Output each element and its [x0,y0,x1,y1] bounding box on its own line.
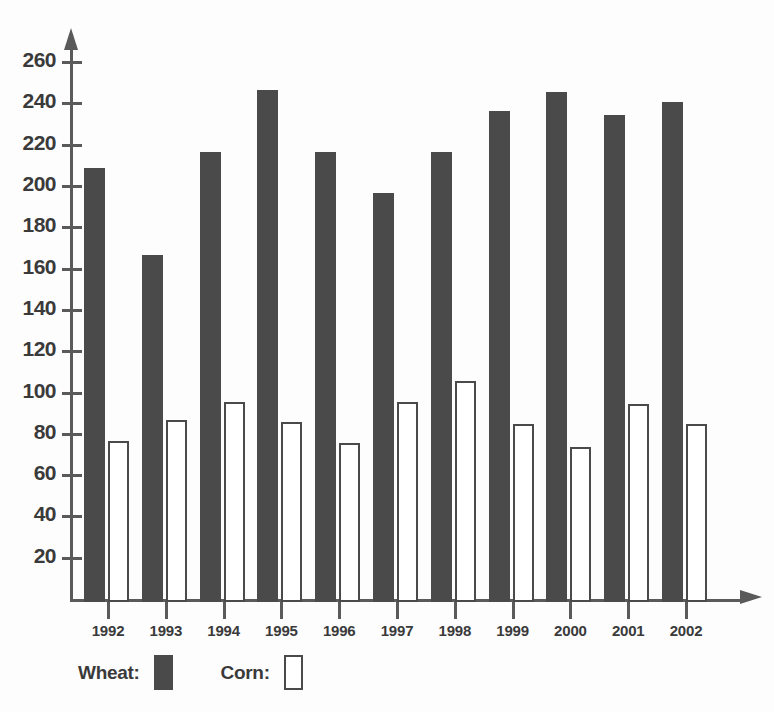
x-tick-1996 [338,602,341,619]
x-tick-1999 [512,602,515,619]
bar-wheat-1995 [257,90,278,602]
bar-wheat-2001 [604,115,625,602]
bar-wheat-1993 [142,255,163,602]
y-tick-label-200: 200 [4,172,56,196]
y-tick-label-120: 120 [4,337,56,361]
y-tick-200 [62,185,82,188]
x-tick-2002 [685,602,688,619]
bar-corn-1998 [455,381,476,602]
y-tick-260 [62,61,82,64]
y-tick-label-240: 240 [4,89,56,113]
x-tick-1997 [396,602,399,619]
x-tick-label-1999: 1999 [481,622,545,639]
y-tick-20 [62,557,82,560]
x-tick-label-1996: 1996 [307,622,371,639]
x-tick-2000 [569,602,572,619]
y-tick-label-220: 220 [4,131,56,155]
bar-corn-2000 [570,447,591,602]
y-tick-60 [62,474,82,477]
bar-corn-2001 [628,404,649,602]
x-tick-label-2001: 2001 [596,622,660,639]
y-tick-160 [62,268,82,271]
bar-wheat-1999 [489,111,510,602]
x-tick-label-1992: 1992 [76,622,140,639]
y-tick-label-60: 60 [4,461,56,485]
y-tick-label-180: 180 [4,213,56,237]
x-tick-1995 [280,602,283,619]
legend-swatch-corn [284,655,303,690]
x-tick-label-2002: 2002 [654,622,718,639]
y-tick-label-140: 140 [4,296,56,320]
x-tick-label-1993: 1993 [134,622,198,639]
y-tick-220 [62,144,82,147]
bar-chart: 20406080100120140160180200220240260 1992… [0,0,774,712]
bar-corn-1997 [397,402,418,602]
bar-wheat-2000 [546,92,567,602]
x-tick-label-2000: 2000 [538,622,602,639]
legend-label-wheat: Wheat: [78,662,140,684]
y-tick-label-20: 20 [4,544,56,568]
y-tick-label-160: 160 [4,255,56,279]
bar-corn-1999 [513,424,534,602]
bar-wheat-2002 [662,102,683,602]
y-tick-label-40: 40 [4,502,56,526]
y-tick-label-260: 260 [4,48,56,72]
bar-wheat-1997 [373,193,394,602]
bar-corn-1994 [224,402,245,602]
y-tick-100 [62,392,82,395]
y-tick-140 [62,309,82,312]
y-tick-120 [62,350,82,353]
bar-corn-1995 [281,422,302,602]
y-tick-80 [62,433,82,436]
y-tick-180 [62,226,82,229]
x-tick-1994 [223,602,226,619]
x-axis-arrow-icon [740,590,762,604]
y-tick-label-80: 80 [4,420,56,444]
chart-legend: Wheat: Corn: [78,655,303,690]
x-tick-label-1998: 1998 [423,622,487,639]
bar-corn-1993 [166,420,187,602]
x-tick-1992 [107,602,110,619]
x-tick-label-1997: 1997 [365,622,429,639]
y-tick-240 [62,102,82,105]
x-tick-2001 [627,602,630,619]
y-axis-arrow-icon [64,28,78,50]
bar-wheat-1996 [315,152,336,602]
x-tick-1993 [165,602,168,619]
legend-label-corn: Corn: [221,662,270,684]
bar-corn-2002 [686,424,707,602]
x-tick-1998 [454,602,457,619]
y-tick-label-100: 100 [4,379,56,403]
bar-wheat-1998 [431,152,452,602]
y-tick-40 [62,515,82,518]
bar-wheat-1994 [200,152,221,602]
bar-corn-1996 [339,443,360,602]
x-tick-label-1995: 1995 [249,622,313,639]
bar-wheat-1992 [84,168,105,602]
y-axis-line [70,46,73,602]
bar-corn-1992 [108,441,129,602]
legend-swatch-wheat [154,655,173,690]
x-tick-label-1994: 1994 [192,622,256,639]
